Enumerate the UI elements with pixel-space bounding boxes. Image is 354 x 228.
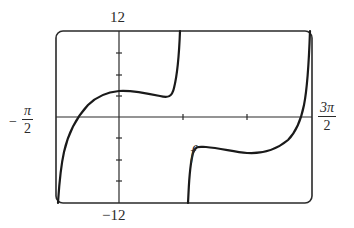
- x-max-label: 3π 2: [318, 101, 336, 133]
- x-min-label: − π 2: [22, 104, 33, 136]
- x-min-sign: −: [9, 115, 17, 129]
- y-min-label: −12: [102, 208, 125, 223]
- x-min-numerator: π: [22, 104, 33, 120]
- y-max-label: 12: [110, 10, 125, 25]
- x-max-denominator: 2: [318, 117, 336, 133]
- function-label: f: [190, 143, 195, 162]
- x-max-numerator: 3π: [318, 101, 336, 117]
- graph-plot: [0, 0, 354, 228]
- x-min-denominator: 2: [22, 120, 33, 136]
